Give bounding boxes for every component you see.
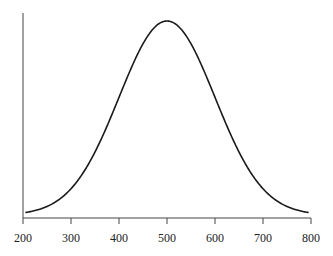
x-tick-label: 700 — [254, 231, 272, 245]
x-tick-label: 800 — [302, 231, 320, 245]
x-tick-label: 200 — [14, 231, 32, 245]
x-tick-label: 500 — [158, 231, 176, 245]
density-curve — [25, 21, 308, 212]
x-tick-label: 600 — [206, 231, 224, 245]
x-axis-ticks: 200300400500600700800 — [14, 218, 320, 245]
x-tick-label: 300 — [62, 231, 80, 245]
x-tick-label: 400 — [110, 231, 128, 245]
bell-curve-chart: 200300400500600700800 — [0, 0, 333, 256]
